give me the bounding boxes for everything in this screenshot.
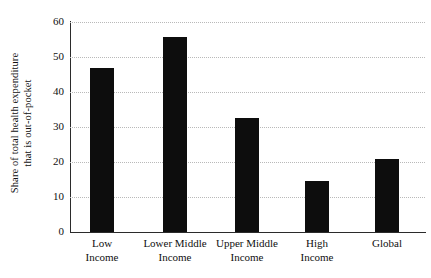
y-tick-label-30: 30 bbox=[42, 120, 64, 132]
y-axis-title: Share of total health expenditure that i… bbox=[0, 0, 42, 245]
y-axis-title-line-2: that is out-of-pocket bbox=[21, 52, 34, 192]
x-tick-label-global: Global bbox=[337, 237, 431, 251]
gridline-50 bbox=[70, 57, 425, 58]
y-axis-title-line-1: Share of total health expenditure bbox=[8, 52, 21, 192]
y-tick-label-20: 20 bbox=[42, 155, 64, 167]
x-axis-spine bbox=[70, 232, 426, 233]
bar-high-income bbox=[305, 181, 329, 232]
y-tick-label-60: 60 bbox=[42, 15, 64, 27]
y-tick-label-10: 10 bbox=[42, 190, 64, 202]
y-tick-label-40: 40 bbox=[42, 85, 64, 97]
x-tick-label-high-income-line-2: Income bbox=[267, 251, 367, 265]
y-tick-label-0: 0 bbox=[42, 225, 64, 237]
bar-lower-middle-income bbox=[163, 37, 187, 232]
bar-global bbox=[375, 159, 399, 233]
plot-area bbox=[70, 22, 425, 232]
gridline-40 bbox=[70, 92, 425, 93]
x-tick-label-global-line-1: Global bbox=[337, 237, 431, 251]
bar-low-income bbox=[90, 68, 114, 233]
bar-upper-middle-income bbox=[235, 118, 259, 232]
gridline-60 bbox=[70, 22, 425, 23]
y-tick-label-50: 50 bbox=[42, 50, 64, 62]
bar-chart-figure: Share of total health expenditure that i… bbox=[0, 0, 431, 278]
